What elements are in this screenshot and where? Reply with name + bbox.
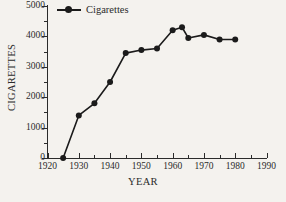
chart-legend: Cigarettes <box>57 4 129 15</box>
legend-item-label: Cigarettes <box>86 4 129 15</box>
data-point-marker <box>107 79 113 85</box>
data-point-marker <box>201 32 207 38</box>
x-axis-title: YEAR <box>0 176 286 187</box>
data-point-marker <box>91 100 97 106</box>
data-point-marker <box>154 46 160 52</box>
data-point-marker <box>76 112 82 118</box>
data-point-marker <box>123 50 129 56</box>
data-point-marker <box>179 24 185 30</box>
data-point-marker <box>217 36 223 42</box>
series-line <box>63 27 235 158</box>
data-point-marker <box>170 27 176 33</box>
legend-line-marker-icon <box>57 5 81 14</box>
data-point-marker <box>232 36 238 42</box>
y-axis-title: CIGARETTES <box>6 23 17 133</box>
data-point-marker <box>185 35 191 41</box>
data-series-cigarettes <box>0 0 286 202</box>
data-point-marker <box>138 47 144 53</box>
plot-area: 010002000300040005000 192019301940195019… <box>0 0 286 202</box>
series-markers <box>60 24 238 161</box>
data-point-marker <box>60 155 66 161</box>
chart-figure: 010002000300040005000 192019301940195019… <box>0 0 286 202</box>
